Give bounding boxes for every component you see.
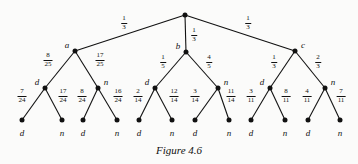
edge-probability-root-to-a: 13 (121, 15, 127, 31)
edge-probability-b-d-to-l6: 1214 (170, 88, 179, 104)
node-label-a-d: d (35, 77, 40, 87)
fraction-numerator: 4 (206, 54, 212, 61)
tree-node-dot-b-d (153, 86, 158, 91)
tree-edge (75, 15, 185, 51)
fraction-denominator: 24 (59, 97, 68, 104)
fraction-numerator: 11 (227, 88, 236, 95)
fraction-denominator: 24 (78, 97, 87, 104)
tree-node-dot-l10 (283, 118, 288, 123)
fraction-numerator: 1 (121, 15, 127, 22)
edge-probability-b-to-b-d: 15 (160, 54, 166, 70)
tree-node-dot-c (293, 49, 298, 54)
tree-node-dot-root (183, 13, 188, 18)
fraction-denominator: 14 (227, 97, 236, 104)
leaf-label-l11: d (306, 128, 311, 138)
fraction-denominator: 3 (121, 24, 127, 31)
fraction-numerator: 1 (271, 54, 277, 61)
leaf-label-l7: d (193, 128, 198, 138)
tree-node-dot-a-n (96, 86, 101, 91)
node-label-c: c (301, 40, 305, 50)
fraction-denominator: 24 (18, 97, 27, 104)
fraction-denominator: 11 (303, 97, 312, 104)
tree-edge (186, 52, 218, 88)
fraction-denominator: 14 (170, 97, 179, 104)
edge-probability-c-n-to-l12: 711 (337, 88, 346, 104)
tree-node-dot-c-n (323, 86, 328, 91)
fraction-denominator: 11 (337, 97, 346, 104)
tree-node-dot-a-d (43, 86, 48, 91)
edge-probability-a-n-to-l4: 1624 (114, 88, 123, 104)
leaf-label-l3: d (81, 128, 86, 138)
fraction-numerator: 2 (134, 88, 143, 95)
figure-caption: Figure 4.6 (156, 144, 202, 156)
fraction-numerator: 3 (247, 88, 256, 95)
edge-probability-a-d-to-l1: 724 (18, 88, 27, 104)
fraction-denominator: 25 (44, 61, 53, 68)
leaf-label-l6: n (170, 128, 175, 138)
tree-node-dot-l4 (115, 118, 120, 123)
fraction-denominator: 24 (114, 97, 123, 104)
leaf-label-l4: n (115, 128, 120, 138)
node-label-c-n: n (331, 77, 336, 87)
leaf-label-l9: d (249, 128, 254, 138)
edge-probability-a-n-to-l3: 824 (78, 88, 87, 104)
tree-node-dot-l1 (20, 118, 25, 123)
fraction-numerator: 3 (191, 88, 200, 95)
edge-probability-a-to-a-d: 825 (44, 52, 53, 68)
tree-node-dot-b-n (216, 86, 221, 91)
fraction-denominator: 5 (206, 63, 212, 70)
fraction-numerator: 16 (114, 88, 123, 95)
fraction-numerator: 1 (160, 54, 166, 61)
edge-probability-c-to-c-d: 13 (271, 54, 277, 70)
fraction-numerator: 17 (59, 88, 68, 95)
tree-node-dot-l12 (338, 118, 343, 123)
fraction-numerator: 8 (282, 88, 291, 95)
tree-node-dot-l6 (170, 118, 175, 123)
edge-probability-b-d-to-l5: 214 (134, 88, 143, 104)
fraction-denominator: 25 (96, 61, 105, 68)
fraction-numerator: 1 (245, 15, 251, 22)
edge-probability-a-to-a-n: 1725 (96, 52, 105, 68)
tree-edges (0, 0, 358, 164)
edge-probability-c-n-to-l11: 411 (303, 88, 312, 104)
fraction-denominator: 14 (134, 97, 143, 104)
tree-node-dot-l8 (227, 118, 232, 123)
fraction-numerator: 2 (315, 54, 321, 61)
tree-node-dot-l9 (249, 118, 254, 123)
fraction-numerator: 7 (337, 88, 346, 95)
node-label-b-n: n (224, 77, 229, 87)
node-label-b-d: d (145, 77, 150, 87)
node-label-a-n: n (104, 77, 109, 87)
edge-probability-root-to-b: 13 (191, 27, 197, 43)
fraction-numerator: 8 (44, 52, 53, 59)
tree-edge (185, 15, 295, 51)
edge-probability-b-n-to-l7: 314 (191, 88, 200, 104)
tree-node-dot-l5 (137, 118, 142, 123)
fraction-numerator: 1 (191, 27, 197, 34)
probability-tree-figure: abcdndndndndndndndndn1313138251725154513… (0, 0, 358, 164)
fraction-denominator: 3 (245, 24, 251, 31)
edge-probability-a-d-to-l2: 1724 (59, 88, 68, 104)
fraction-denominator: 3 (271, 63, 277, 70)
leaf-label-l5: d (137, 128, 142, 138)
fraction-numerator: 8 (78, 88, 87, 95)
tree-node-dot-l3 (81, 118, 86, 123)
edge-probability-b-to-b-n: 45 (206, 54, 212, 70)
leaf-label-l1: d (20, 128, 25, 138)
tree-node-dot-c-d (268, 86, 273, 91)
node-label-c-d: d (260, 77, 265, 87)
fraction-numerator: 7 (18, 88, 27, 95)
fraction-denominator: 11 (282, 97, 291, 104)
tree-node-dot-l11 (306, 118, 311, 123)
node-label-b: b (176, 41, 181, 51)
leaf-label-l12: n (338, 128, 343, 138)
tree-node-dot-l7 (193, 118, 198, 123)
fraction-denominator: 11 (247, 97, 256, 104)
leaf-label-l8: n (227, 128, 232, 138)
leaf-label-l10: n (283, 128, 288, 138)
fraction-numerator: 12 (170, 88, 179, 95)
fraction-denominator: 5 (160, 63, 166, 70)
fraction-denominator: 14 (191, 97, 200, 104)
fraction-numerator: 17 (96, 52, 105, 59)
edge-probability-c-d-to-l10: 811 (282, 88, 291, 104)
